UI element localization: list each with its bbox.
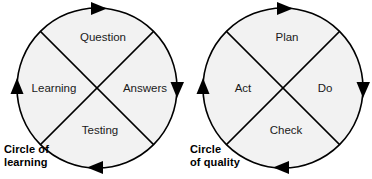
caption-learning-line1: Circle of (4, 143, 49, 155)
diagram-circle-of-quality: Plan Do Check Act Circle of quality (190, 2, 370, 174)
quadrant-label-quality-top: Plan (275, 31, 298, 43)
quadrant-label-quality-bottom: Check (270, 124, 303, 136)
diagram-root: Question Answers Testing Learning Circle… (0, 0, 372, 179)
quadrant-label-quality-right: Do (318, 82, 333, 94)
caption-quality-line2: of quality (190, 156, 241, 168)
quadrant-label-learning-bottom: Testing (82, 124, 118, 136)
quadrant-label-quality-left: Act (235, 82, 252, 94)
diagram-circle-of-learning: Question Answers Testing Learning Circle… (4, 2, 184, 174)
quadrant-label-learning-left: Learning (32, 82, 77, 94)
caption-quality-line1: Circle (190, 143, 221, 155)
caption-learning-line2: learning (4, 156, 48, 168)
quadrant-label-learning-right: Answers (123, 82, 167, 94)
two-circle-diagram: Question Answers Testing Learning Circle… (0, 0, 372, 179)
quadrant-label-learning-top: Question (80, 31, 126, 43)
